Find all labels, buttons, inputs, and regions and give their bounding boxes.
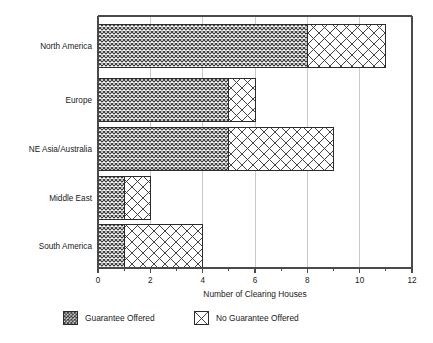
legend: Guarantee Offered No Guarantee Offered <box>63 311 299 324</box>
bar-chart: North America Europe NE Asia/Australia M… <box>0 0 433 343</box>
bar-segment-no-guarantee-offered <box>307 24 386 67</box>
bar-group-south-america <box>98 224 203 267</box>
bar-segment-guarantee-offered <box>98 78 229 121</box>
x-tick-label-0: 0 <box>96 276 101 285</box>
legend-label-guarantee-offered: Guarantee Offered <box>85 313 155 323</box>
bar-segment-guarantee-offered <box>98 224 124 267</box>
x-tick-label-4: 4 <box>200 276 205 285</box>
x-tick-label-10: 10 <box>355 276 365 285</box>
x-axis-major-ticks <box>98 268 412 273</box>
bar-group-middle-east <box>98 176 150 219</box>
bar-group-europe <box>98 78 255 121</box>
category-label-north-america: North America <box>40 42 92 51</box>
bar-segment-no-guarantee-offered <box>229 78 255 121</box>
bar-segment-guarantee-offered <box>98 127 229 170</box>
bar-segment-no-guarantee-offered <box>229 127 334 170</box>
category-label-ne-asia-australia: NE Asia/Australia <box>29 145 93 154</box>
bar-segment-guarantee-offered <box>98 24 307 67</box>
dense-crosshatch-swatch-icon <box>63 311 77 324</box>
category-label-middle-east: Middle East <box>49 194 93 203</box>
x-tick-label-8: 8 <box>305 276 310 285</box>
legend-label-no-guarantee-offered: No Guarantee Offered <box>216 313 299 323</box>
bar-group-north-america <box>98 24 386 67</box>
legend-item-no-guarantee-offered: No Guarantee Offered <box>194 311 299 324</box>
bar-group-ne-asia-australia <box>98 127 334 170</box>
coarse-crosshatch-swatch-icon <box>194 311 208 324</box>
x-axis-title: Number of Clearing Houses <box>203 289 306 299</box>
bar-segment-no-guarantee-offered <box>124 224 203 267</box>
bar-segment-no-guarantee-offered <box>124 176 150 219</box>
category-label-europe: Europe <box>66 96 93 105</box>
x-tick-label-12: 12 <box>407 276 417 285</box>
bar-segment-guarantee-offered <box>98 176 124 219</box>
category-label-south-america: South America <box>39 242 93 251</box>
legend-item-guarantee-offered: Guarantee Offered <box>63 311 155 324</box>
x-tick-label-2: 2 <box>148 276 153 285</box>
x-tick-label-6: 6 <box>253 276 258 285</box>
chart-container: North America Europe NE Asia/Australia M… <box>0 0 433 343</box>
